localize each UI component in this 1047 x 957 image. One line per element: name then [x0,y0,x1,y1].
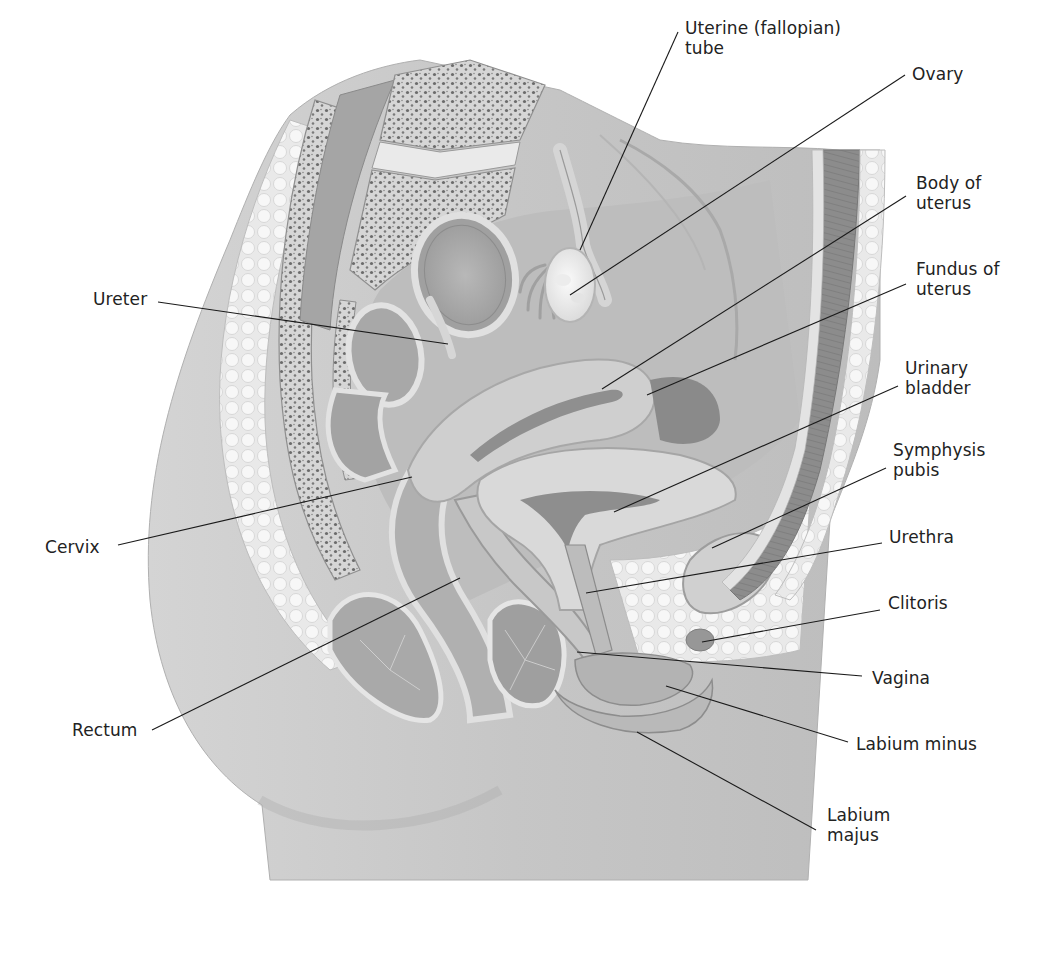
label-cervix: Cervix [45,537,100,557]
label-labium-minus: Labium minus [856,734,977,754]
lumbar-vertebra [380,60,545,150]
label-vagina: Vagina [872,668,930,688]
ovary [545,248,595,322]
label-uterine-tube: Uterine (fallopian) tube [685,18,841,58]
label-body-of-uterus: Body of uterus [916,173,981,213]
label-ovary: Ovary [912,64,963,84]
clitoris [686,629,714,651]
label-fundus-of-uterus: Fundus of uterus [916,259,1000,299]
label-labium-majus: Labium majus [827,805,890,845]
label-urinary-bladder: Urinary bladder [905,358,971,398]
label-rectum: Rectum [72,720,137,740]
label-clitoris: Clitoris [888,593,948,613]
anatomy-diagram: Uterine (fallopian) tube Ovary Body of u… [0,0,1047,957]
label-symphysis-pubis: Symphysis pubis [893,440,985,480]
label-ureter: Ureter [93,289,147,309]
label-urethra: Urethra [889,527,954,547]
